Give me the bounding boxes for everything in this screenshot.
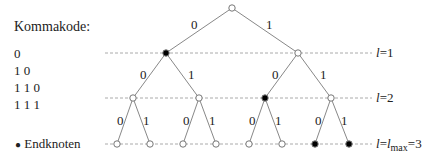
level-2-label: l=2	[376, 91, 393, 104]
edge-label: 0	[117, 114, 124, 127]
inner-node	[295, 50, 301, 56]
edge-label: 0	[249, 114, 256, 127]
inner-node	[328, 95, 334, 101]
node	[196, 95, 202, 101]
node	[213, 141, 219, 147]
node	[114, 141, 120, 147]
node	[246, 141, 252, 147]
node	[180, 141, 186, 147]
edge-label: 1	[143, 114, 150, 127]
node	[279, 141, 285, 147]
edge-label: 0	[183, 114, 190, 127]
edge-label: 0	[272, 68, 279, 81]
edge-label: 0	[191, 18, 198, 31]
end-node	[312, 141, 318, 147]
node	[147, 141, 153, 147]
edge-label: 1	[188, 68, 195, 81]
end-node	[346, 141, 352, 147]
level-1-label: l=1	[376, 46, 393, 59]
code-tree	[0, 0, 441, 157]
level-max-label: l=lmax=3	[376, 137, 422, 154]
node	[130, 95, 136, 101]
edge-label: 1	[266, 18, 273, 31]
edge-label: 1	[275, 114, 282, 127]
edge-label: 1	[320, 68, 327, 81]
end-node	[262, 95, 268, 101]
edge-label: 0	[140, 68, 147, 81]
edge-label: 1	[209, 114, 216, 127]
edge-label: 1	[341, 114, 348, 127]
edge-label: 0	[315, 114, 322, 127]
root-node	[229, 5, 235, 11]
end-node	[163, 50, 169, 56]
